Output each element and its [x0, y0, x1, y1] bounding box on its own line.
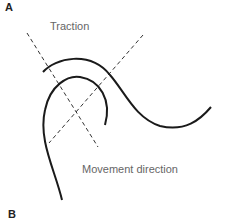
panel-label-b: B: [8, 208, 16, 220]
inner-curve: [43, 77, 107, 200]
outer-curve: [43, 59, 211, 128]
diagram: A Traction Movement direction B: [0, 0, 225, 222]
movement-axis-line: [49, 35, 143, 143]
movement-direction-label: Movement direction: [82, 163, 178, 175]
diagram-drawing: [0, 0, 225, 222]
traction-axis-line: [27, 33, 98, 147]
